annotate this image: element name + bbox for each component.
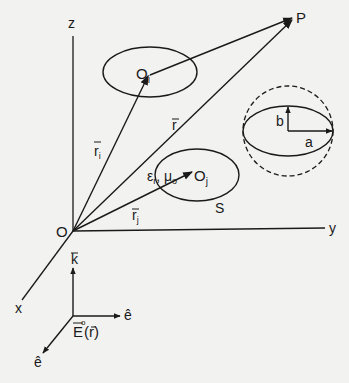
scatterer-i-ellipse <box>103 47 197 97</box>
e-hat-vertical-label: ê <box>34 354 42 370</box>
x-axis <box>22 231 73 300</box>
incident-wave-triad: k ê ê o E (r) <box>34 251 132 370</box>
svg-text:k: k <box>71 251 79 267</box>
svg-text:ri: ri <box>94 143 101 161</box>
k-vector-label: k <box>71 251 79 267</box>
svg-text:rj: rj <box>132 207 139 225</box>
svg-text:(r): (r) <box>84 323 99 340</box>
vector-r-i-label: ri <box>94 142 101 161</box>
incident-field-label: o E (r) <box>73 318 99 340</box>
y-axis <box>73 228 325 231</box>
scatterer-i-center-label: Oi <box>136 65 150 85</box>
e-vertical-arrow <box>43 316 73 353</box>
semi-major-label: a <box>305 134 313 150</box>
point-p-label: P <box>296 9 306 26</box>
e-hat-horizontal-label: ê <box>124 307 132 323</box>
scatterer-j-center-label: Oj <box>194 167 208 187</box>
surface-label: S <box>215 200 224 216</box>
svg-text:r: r <box>172 117 177 133</box>
semi-minor-label: b <box>276 113 284 129</box>
vector-r-i <box>73 76 148 231</box>
origin-label: O <box>56 223 68 240</box>
x-axis-label: x <box>15 300 22 316</box>
y-axis-label: y <box>329 220 336 236</box>
material-label: εr, μo <box>147 168 177 186</box>
z-axis-label: z <box>68 15 75 31</box>
spheroid-inset: b a <box>243 86 333 176</box>
svg-text:E: E <box>73 323 83 340</box>
vector-oi-to-p <box>150 18 292 75</box>
vector-r-j-label: rj <box>132 207 139 225</box>
scattering-geometry-diagram: z y x O Oi εr, μo Oj S P ri r rj b a <box>0 0 349 383</box>
